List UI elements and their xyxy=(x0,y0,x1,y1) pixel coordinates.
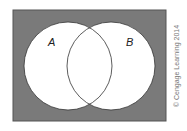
venn-diagram: A B xyxy=(0,0,187,131)
copyright-credit: © Cengage Learning 2014 xyxy=(173,25,180,107)
set-b-fill xyxy=(67,22,155,110)
set-a-label: A xyxy=(47,36,55,48)
set-b-label: B xyxy=(126,36,133,48)
